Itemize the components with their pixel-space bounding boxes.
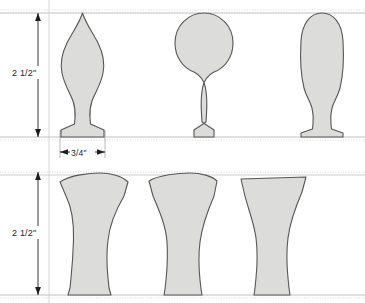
profile-drawing-canvas: 2 1/2" 2 1/2" 3/4" xyxy=(0,0,365,303)
row-legs xyxy=(60,173,306,295)
dimension-label-top-row-height: 2 1/2" xyxy=(12,68,36,78)
dimension-label-base-width: 3/4" xyxy=(71,148,87,158)
dimension-label-bottom-row-height: 2 1/2" xyxy=(12,228,36,238)
drawing-sheet: 2 1/2" 2 1/2" 3/4" xyxy=(0,0,365,303)
